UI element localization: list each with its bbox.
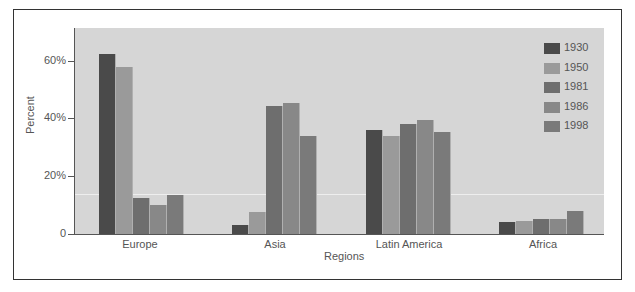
bar: [366, 130, 383, 234]
bar: [499, 222, 516, 234]
legend-swatch: [544, 121, 560, 132]
bar: [400, 124, 417, 234]
y-tick-60: [68, 61, 74, 62]
plot-area: [74, 28, 604, 234]
legend-swatch: [544, 63, 560, 74]
category-label: Latin America: [359, 238, 459, 250]
bar: [133, 198, 150, 234]
legend-label: 1950: [564, 61, 588, 73]
bar: [232, 225, 249, 234]
y-tick-40: [68, 118, 74, 119]
bar: [116, 67, 133, 234]
bar: [249, 212, 266, 234]
legend-label: 1930: [564, 41, 588, 53]
bar: [516, 221, 533, 234]
legend-swatch: [544, 82, 560, 93]
bar: [533, 219, 550, 234]
bar: [283, 103, 300, 234]
bar: [417, 120, 434, 234]
bar: [99, 54, 116, 234]
bar: [550, 219, 567, 234]
legend-label: 1998: [564, 119, 588, 131]
legend-swatch: [544, 102, 560, 113]
bar: [434, 132, 451, 234]
y-axis-label: Percent: [24, 96, 36, 134]
category-label: Europe: [90, 238, 190, 250]
legend-label: 1986: [564, 100, 588, 112]
category-label: Africa: [493, 238, 593, 250]
bar: [167, 195, 184, 234]
bar: [300, 136, 317, 234]
y-tick-0: [68, 234, 74, 235]
category-label: Asia: [225, 238, 325, 250]
legend-label: 1981: [564, 80, 588, 92]
bar: [383, 136, 400, 234]
y-tick-label: 60%: [26, 54, 66, 66]
y-tick-label: 0: [26, 227, 66, 239]
x-axis: [74, 234, 604, 235]
x-axis-label: Regions: [324, 250, 364, 262]
bar: [150, 205, 167, 234]
bar: [266, 106, 283, 234]
y-axis: [74, 28, 75, 235]
bar: [567, 211, 584, 234]
highlight-line: [74, 194, 604, 195]
legend-swatch: [544, 43, 560, 54]
y-tick-label: 20%: [26, 169, 66, 181]
y-tick-20: [68, 176, 74, 177]
